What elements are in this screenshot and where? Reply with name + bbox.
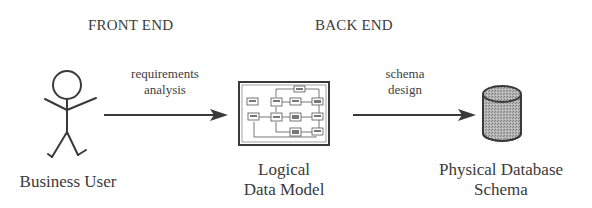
physical-database-schema-label: Physical Database Schema bbox=[416, 160, 586, 200]
node-label-line: Logical bbox=[222, 160, 346, 180]
data-model-diagram-icon bbox=[239, 82, 329, 145]
requirements-analysis-arrow bbox=[104, 109, 228, 121]
node-label-line: Business User bbox=[6, 172, 130, 192]
database-cylinder-icon bbox=[483, 86, 521, 141]
node-label-line: Data Model bbox=[222, 180, 346, 200]
logical-data-model-label: Logical Data Model bbox=[222, 160, 346, 200]
front-end-back-end-diagram: FRONT END BACK END requirements analysis… bbox=[0, 0, 592, 208]
business-user-label: Business User bbox=[6, 172, 130, 192]
stick-figure-icon bbox=[45, 71, 96, 157]
node-label-line: Schema bbox=[416, 180, 586, 200]
node-label-line: Physical Database bbox=[416, 160, 586, 180]
schema-design-arrow bbox=[353, 109, 476, 121]
